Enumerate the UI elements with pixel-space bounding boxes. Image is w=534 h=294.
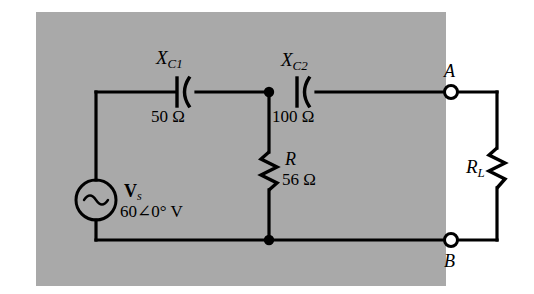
capacitor-c2-value: 100 Ω — [272, 108, 314, 125]
resistor-r-zigzag — [261, 152, 277, 190]
resistor-rl-label: RL — [466, 157, 485, 180]
source-value: 60∠0° V — [120, 203, 183, 220]
source-label-symbol: V — [124, 181, 137, 201]
resistor-rl-zigzag — [489, 148, 505, 188]
terminal-a-circle — [445, 86, 458, 99]
capacitor-c1-label: XC1 — [156, 48, 183, 71]
capacitor-c2-plate-right — [305, 78, 310, 106]
capacitor-c1-value: 50 Ω — [151, 108, 185, 125]
resistor-r-label: R — [285, 150, 296, 168]
ac-source-sine-icon — [84, 196, 108, 205]
capacitor-c1-plate-right — [185, 78, 190, 106]
resistor-rl-name: R — [466, 156, 478, 177]
terminal-a-label: A — [444, 62, 455, 80]
circuit-diagram: XC1 50 Ω XC2 100 Ω R 56 Ω RL Vs 60∠0° V … — [0, 0, 534, 294]
terminal-b-label: B — [444, 252, 455, 270]
source-label: Vs — [124, 182, 142, 203]
resistor-r-value: 56 Ω — [282, 171, 316, 188]
terminal-b-circle — [445, 234, 458, 247]
capacitor-c1-name: X — [156, 47, 168, 68]
capacitor-c1-subscript: C1 — [168, 56, 183, 71]
circuit-schematic-svg — [0, 0, 534, 294]
resistor-rl-subscript: L — [478, 165, 485, 180]
capacitor-c2-subscript: C2 — [293, 58, 308, 73]
capacitor-c2-label: XC2 — [281, 50, 308, 73]
junction-dot-bottom — [264, 235, 274, 245]
junction-dot-top — [264, 87, 274, 97]
capacitor-c2-name: X — [281, 49, 293, 70]
